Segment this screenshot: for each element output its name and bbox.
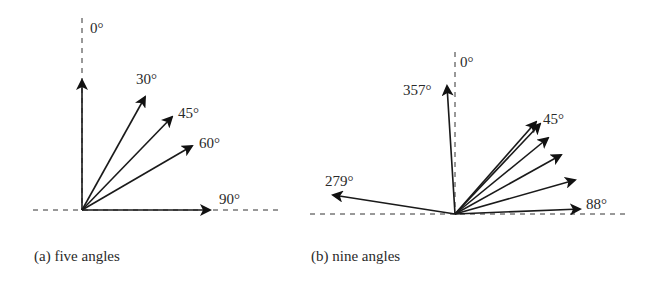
label-a-30: 30°	[136, 71, 157, 87]
angle-diagram: 0° 30° 45° 60° 90° (a) five angles 0° 35…	[0, 0, 659, 289]
label-a-60: 60°	[199, 135, 220, 151]
arrow-b-70-deg	[455, 180, 575, 214]
arrow-a-45-deg	[82, 117, 172, 210]
arrow-b-88-deg	[455, 209, 580, 214]
panel-a: 0° 30° 45° 60° 90° (a) five angles	[33, 18, 282, 265]
arrow-a-60-deg	[82, 146, 192, 210]
label-a-45: 45°	[178, 105, 199, 121]
arrow-a-30-deg	[82, 97, 145, 210]
arrows-a	[82, 80, 210, 210]
arrow-b-45-deg	[455, 124, 540, 214]
label-b-279: 279°	[325, 173, 354, 189]
caption-a: (a) five angles	[34, 248, 120, 265]
label-b-88: 88°	[586, 196, 607, 212]
label-b-45: 45°	[543, 111, 564, 127]
arrow-b-50-deg	[455, 138, 548, 214]
label-b-357: 357°	[403, 82, 432, 98]
label-b-0: 0°	[460, 54, 474, 70]
arrow-b-279-deg	[333, 195, 455, 214]
label-a-90: 90°	[219, 191, 240, 207]
caption-b: (b) nine angles	[311, 248, 400, 265]
panel-b: 0° 357° 45° 279° 88° (b) nine angles	[310, 52, 628, 265]
arrow-b-357-deg	[447, 86, 455, 214]
arrows-b	[333, 86, 580, 214]
label-a-0: 0°	[90, 20, 104, 36]
arrow-b-57-deg	[455, 155, 561, 214]
